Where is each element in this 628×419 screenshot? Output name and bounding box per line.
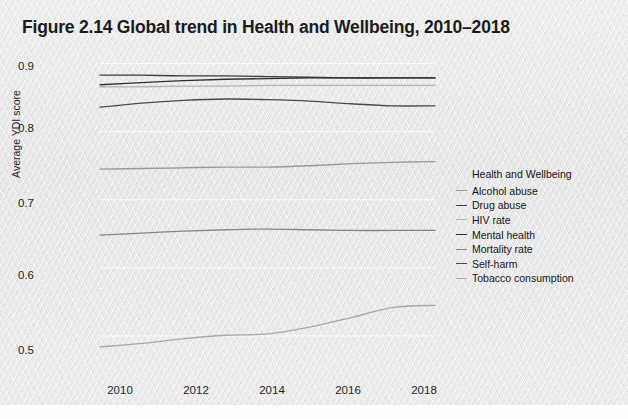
legend-item-label: Alcohol abuse — [472, 185, 538, 197]
series-line-mental-health — [100, 78, 435, 85]
legend-item-label: Mental health — [472, 229, 535, 241]
legend-item-drug-abuse[interactable]: Drug abuse — [456, 198, 621, 213]
legend-item-hiv-rate[interactable]: HIV rate — [456, 213, 621, 228]
legend-item-mental-health[interactable]: Mental health — [456, 227, 621, 242]
x-tick-0: 2010 — [98, 384, 142, 396]
legend-item-alcohol-abuse[interactable]: Alcohol abuse — [456, 184, 621, 199]
plot-area — [100, 50, 435, 370]
legend-item-label: Mortality rate — [472, 243, 533, 255]
y-tick-1: 0.8 — [0, 122, 34, 134]
series-line-mortality-rate — [100, 229, 435, 235]
legend-title: Health and Wellbeing — [472, 168, 621, 180]
series-line-hiv-rate — [100, 85, 435, 86]
figure-container: Figure 2.14 Global trend in Health and W… — [0, 0, 628, 419]
series-line-self-harm — [100, 99, 435, 107]
legend-item-self-harm[interactable]: Self-harm — [456, 256, 621, 271]
series-line-tobacco-consumption — [100, 305, 435, 347]
y-tick-0: 0.9 — [0, 60, 34, 72]
y-tick-3: 0.6 — [0, 269, 34, 281]
legend-swatch-icon — [456, 278, 467, 279]
legend-swatch-icon — [456, 205, 467, 206]
legend-item-label: HIV rate — [472, 214, 511, 226]
y-axis-label: Average YDI score — [10, 74, 22, 194]
series-line-alcohol-abuse — [100, 162, 435, 169]
legend-swatch-icon — [456, 190, 467, 191]
legend-item-tobacco-consumption[interactable]: Tobacco consumption — [456, 271, 621, 286]
legend: Health and Wellbeing Alcohol abuseDrug a… — [456, 168, 621, 286]
y-tick-2: 0.7 — [0, 197, 34, 209]
legend-item-label: Drug abuse — [472, 199, 526, 211]
x-tick-1: 2012 — [174, 384, 218, 396]
legend-swatch-icon — [456, 219, 467, 220]
page-margin — [0, 405, 628, 419]
x-tick-3: 2016 — [326, 384, 370, 396]
legend-item-mortality-rate[interactable]: Mortality rate — [456, 242, 621, 257]
series-lines — [100, 50, 435, 370]
y-tick-4: 0.5 — [0, 344, 34, 356]
legend-swatch-icon — [456, 263, 467, 264]
x-tick-4: 2018 — [402, 384, 446, 396]
legend-swatch-icon — [456, 234, 467, 235]
figure-title: Figure 2.14 Global trend in Health and W… — [22, 17, 510, 38]
x-tick-2: 2014 — [250, 384, 294, 396]
legend-item-label: Self-harm — [472, 258, 518, 270]
legend-item-label: Tobacco consumption — [472, 272, 574, 284]
legend-items: Alcohol abuseDrug abuseHIV rateMental he… — [456, 184, 621, 286]
legend-swatch-icon — [456, 249, 467, 250]
